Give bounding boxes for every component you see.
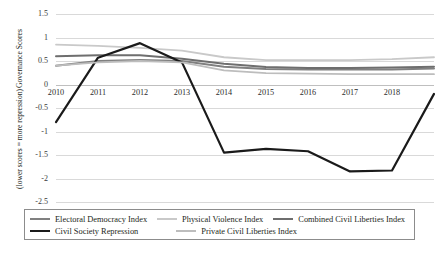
x-axis-tick-label: 2011 [90, 88, 106, 97]
legend-item: Physical Violence Index [157, 215, 263, 224]
legend-item: Combined Civil Liberties Index [273, 215, 405, 224]
y-axis-tick-label: -1.5 [14, 151, 48, 159]
legend: Electoral Democracy IndexPhysical Violen… [24, 209, 415, 240]
legend-row: Electoral Democracy IndexPhysical Violen… [30, 213, 409, 225]
legend-label: Electoral Democracy Index [55, 215, 147, 224]
gridline [56, 202, 434, 203]
y-axis-tick-label: -2 [14, 175, 48, 183]
x-axis-tick-label: 2013 [174, 88, 190, 97]
y-axis-tick-label: -0.5 [14, 104, 48, 112]
legend-color-swatch [30, 230, 50, 232]
chart-figure: (lower scores = more repression) Governa… [0, 0, 439, 259]
legend-row: Civil Society RepressionPrivate Civil Li… [30, 225, 409, 237]
y-axis-tick-label: 1 [14, 34, 48, 42]
legend-item: Electoral Democracy Index [30, 215, 147, 224]
legend-color-swatch [30, 218, 50, 220]
x-axis-tick-label: 2015 [258, 88, 274, 97]
plot-area [56, 14, 434, 202]
legend-label: Combined Civil Liberties Index [298, 215, 405, 224]
x-axis-tick-labels: 201020112012201320142015201620172018 [56, 88, 434, 100]
legend-label: Physical Violence Index [182, 215, 263, 224]
x-axis-tick-label: 2014 [216, 88, 232, 97]
legend-item: Private Civil Liberties Index [176, 227, 297, 236]
legend-label: Civil Society Repression [55, 227, 138, 236]
y-axis-tick-label: 0.5 [14, 57, 48, 65]
x-axis-tick-label: 2012 [132, 88, 148, 97]
x-axis-tick-label: 2010 [48, 88, 64, 97]
y-axis-tick-label: -1 [14, 128, 48, 136]
y-axis-tick-label: 1.5 [14, 10, 48, 18]
y-axis-tick-label: -2.5 [14, 198, 48, 206]
y-axis-tick-label: 0 [14, 81, 48, 89]
legend-color-swatch [157, 218, 177, 220]
x-axis-tick-label: 2017 [342, 88, 358, 97]
x-axis-tick-label: 2016 [300, 88, 316, 97]
legend-item: Civil Society Repression [30, 227, 138, 236]
legend-label: Private Civil Liberties Index [201, 227, 297, 236]
y-axis-tick-labels: 1.510.50-0.5-1-1.5-2-2.5 [14, 14, 48, 202]
legend-color-swatch [176, 230, 196, 232]
series-lines [56, 14, 434, 202]
x-axis-tick-label: 2018 [384, 88, 400, 97]
legend-color-swatch [273, 218, 293, 220]
